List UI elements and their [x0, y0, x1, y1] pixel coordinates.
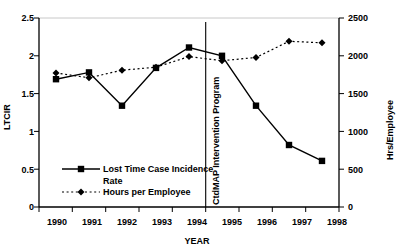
plot-area — [0, 0, 398, 252]
legend-marker-ltcir — [62, 166, 100, 172]
y-axis-ticks — [34, 18, 39, 207]
chart-container: 2.5 2 1.5 1 0.5 0 2500 2000 1500 1000 50… — [0, 0, 398, 252]
y2-axis-ticks — [339, 18, 344, 207]
legend-marker-hours — [62, 189, 100, 196]
ltcir-line — [56, 48, 322, 161]
ltcir-markers — [53, 44, 325, 164]
x-axis-ticks — [39, 207, 339, 212]
